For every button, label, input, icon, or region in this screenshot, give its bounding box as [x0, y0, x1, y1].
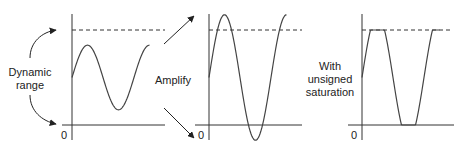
saturation-label-line3: saturation — [306, 86, 354, 98]
saturation-annotation: With unsigned saturation — [306, 60, 354, 98]
panel-amplified: 0 — [195, 14, 302, 141]
panel-original: 0 — [61, 14, 165, 141]
zero-label: 0 — [198, 129, 204, 141]
panel-saturated: 0 — [348, 14, 454, 141]
sine-wave-original — [72, 45, 150, 110]
dynamic-range-top-arrow — [30, 30, 56, 58]
amplify-top-arrow — [164, 16, 194, 44]
dynamic-range-label-line2: range — [16, 79, 44, 91]
dynamic-range-bottom-arrow — [30, 95, 56, 124]
saturation-label-line1: With — [319, 60, 341, 72]
amplify-label: Amplify — [155, 74, 192, 86]
zero-label: 0 — [351, 129, 357, 141]
clipped-wave-saturated — [362, 30, 440, 125]
amplify-annotation: Amplify — [155, 16, 194, 138]
dynamic-range-annotation: Dynamic range — [9, 30, 56, 124]
saturation-label-line2: unsigned — [308, 73, 353, 85]
dynamic-range-label-line1: Dynamic — [9, 66, 52, 78]
sine-wave-amplified — [209, 15, 287, 140]
amplify-bottom-arrow — [164, 108, 194, 138]
diagram: Dynamic range 0 Amplify 0 With unsigned … — [0, 0, 463, 150]
zero-label: 0 — [61, 129, 67, 141]
